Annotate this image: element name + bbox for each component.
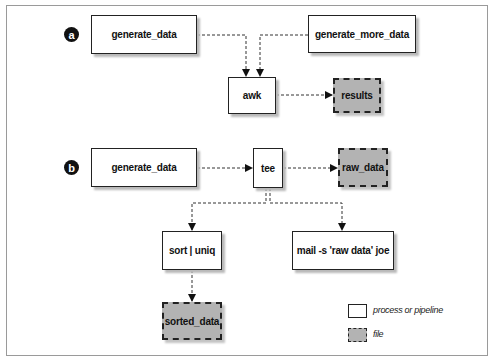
node-awk: awk (228, 77, 276, 114)
node-generate-data-b: generate_data (91, 148, 197, 187)
node-generate-data-a: generate_data (91, 15, 197, 54)
edge-tee-to-mail (270, 188, 342, 230)
node-mail: mail -s 'raw data' joe (292, 231, 394, 270)
node-generate-more-data: generate_more_data (308, 15, 416, 53)
node-sort-uniq: sort | uniq (162, 231, 222, 270)
legend-process-label: process or pipeline (373, 305, 443, 315)
node-sorted-data-file: sorted_data (162, 302, 222, 340)
edge-generate-data-to-awk (197, 35, 246, 76)
edge-tee-to-sort-uniq (192, 188, 266, 230)
panel-a-marker: a (64, 27, 79, 42)
node-results-file: results (333, 78, 381, 113)
panel-b-marker: b (64, 160, 79, 175)
legend-file-label: file (373, 329, 383, 339)
legend-process-swatch (348, 304, 367, 318)
node-raw-data-file: raw_data (338, 148, 388, 187)
edge-generate-more-data-to-awk (260, 35, 308, 76)
legend-file-swatch (348, 328, 367, 342)
node-tee: tee (253, 148, 283, 188)
